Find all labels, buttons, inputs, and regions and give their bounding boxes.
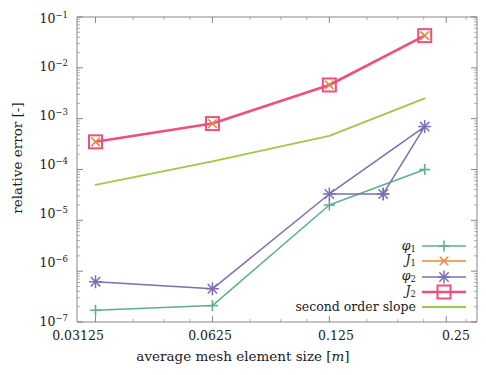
- legend-marker-group: [422, 241, 466, 308]
- series-line-phi2-segment: [383, 127, 425, 194]
- series-line-J2: [96, 36, 425, 142]
- series-line-second-order-slope: [96, 98, 425, 184]
- figure-container: relative error [-] 10−1 10−2 10−3 10−4 1…: [0, 0, 486, 375]
- data-series-group: [89, 29, 431, 316]
- axes-frame: [77, 17, 477, 322]
- plot-area: [0, 0, 486, 375]
- axis-ticks: [77, 17, 477, 322]
- series-line-phi1: [96, 170, 425, 311]
